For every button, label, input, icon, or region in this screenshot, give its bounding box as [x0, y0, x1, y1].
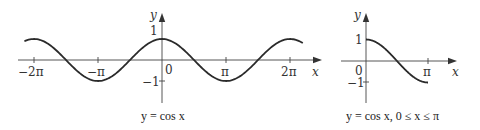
origin-label: 0	[165, 63, 173, 77]
figure: y x −2π −π π 2π 1 −1 0 y = cos x y x π 1…	[0, 0, 480, 130]
tick-label-neg-one: −1	[142, 75, 160, 89]
tick-label-pi: π	[221, 65, 229, 79]
right-caption: y = cos x, 0 ≤ x ≤ π	[346, 109, 439, 123]
tick-label-one: 1	[355, 33, 363, 47]
tick-label-one: 1	[150, 24, 158, 38]
y-axis-arrow-icon	[363, 13, 369, 22]
y-axis-arrow-icon	[159, 13, 165, 22]
x-axis-arrow-icon	[448, 58, 457, 64]
tick-label-pi: π	[423, 65, 431, 79]
tick-label-neg2pi: −2π	[18, 65, 44, 79]
y-axis-label: y	[149, 8, 157, 22]
tick-label-2pi: 2π	[281, 65, 297, 79]
x-axis-label: x	[312, 65, 319, 79]
right-graph: y x π 1 −1 0 y = cos x, 0 ≤ x ≤ π	[341, 8, 459, 123]
x-axis-arrow-icon	[313, 57, 322, 63]
tick-label-negpi: −π	[87, 65, 105, 79]
left-caption: y = cos x	[141, 109, 185, 123]
x-axis-label: x	[452, 65, 459, 79]
y-axis-label: y	[353, 8, 361, 22]
tick-label-neg-one: −1	[347, 76, 365, 90]
origin-label: 0	[355, 64, 363, 78]
left-graph: y x −2π −π π 2π 1 −1 0 y = cos x	[18, 8, 322, 123]
